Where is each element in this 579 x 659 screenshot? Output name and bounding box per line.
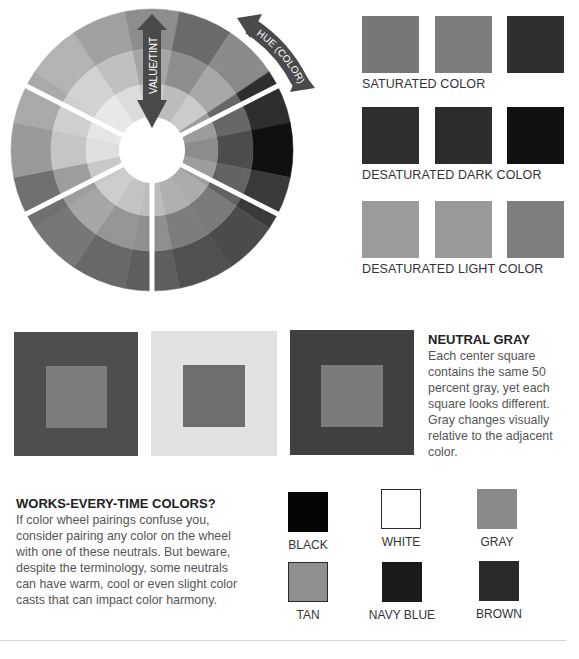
neutral-swatch-label: BLACK: [263, 538, 353, 552]
neutral-swatch-label: WHITE: [356, 535, 446, 549]
swatch-group-label: DESATURATED LIGHT COLOR: [362, 262, 544, 276]
swatch: [435, 201, 492, 258]
neutral-swatch-gray: [477, 489, 517, 529]
neutral-swatch-label: BROWN: [454, 607, 544, 621]
works-every-time-heading: WORKS-EVERY-TIME COLORS?: [16, 496, 216, 511]
value-tint-label: VALUE/TINT: [148, 37, 159, 94]
neutral-square-3: [290, 330, 414, 455]
neutral-square-3-center: [321, 365, 383, 427]
swatch: [362, 107, 419, 164]
wheel-segment: [11, 122, 53, 177]
neutral-swatch-label: NAVY BLUE: [357, 608, 447, 622]
neutral-gray-body: Each center square contains the same 50 …: [428, 348, 568, 460]
color-wheel: VALUE/TINT HUE (COLOR): [0, 0, 330, 300]
neutral-swatch-tan: [288, 562, 328, 602]
divider-rule: [0, 640, 566, 641]
neutral-swatch-white: [381, 489, 421, 529]
wheel-segment: [251, 122, 293, 177]
swatch: [507, 201, 564, 258]
swatch: [362, 16, 419, 73]
swatch: [507, 107, 564, 164]
neutral-square-2-center: [183, 365, 245, 427]
neutral-square-1: [14, 332, 138, 456]
swatch-group-label: SATURATED COLOR: [362, 77, 485, 91]
works-every-time-body: If color wheel pairings confuse you, con…: [16, 512, 244, 608]
swatch-group-label: DESATURATED DARK COLOR: [362, 168, 542, 182]
neutral-gray-heading: NEUTRAL GRAY: [428, 332, 530, 347]
neutral-swatch-brown: [479, 561, 519, 601]
neutral-swatch-black: [288, 492, 328, 532]
neutral-swatch-label: GRAY: [452, 535, 542, 549]
neutral-swatch-navy-blue: [382, 562, 422, 602]
neutral-swatch-label: TAN: [263, 608, 353, 622]
swatch: [507, 16, 564, 73]
swatch: [435, 16, 492, 73]
swatch: [362, 201, 419, 258]
swatch: [435, 107, 492, 164]
neutral-square-1-center: [46, 366, 107, 428]
neutral-square-2: [151, 331, 277, 456]
